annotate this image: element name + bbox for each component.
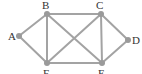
graph-diagram: ABCDEF	[0, 0, 142, 74]
node-d	[125, 37, 131, 43]
edge-d-e	[102, 40, 128, 63]
node-label-e: E	[98, 67, 105, 74]
node-label-c: C	[96, 0, 103, 11]
node-label-b: B	[42, 0, 49, 11]
node-label-a: A	[8, 30, 16, 42]
edge-c-e	[101, 14, 102, 63]
node-b	[44, 11, 50, 17]
node-e	[99, 60, 105, 66]
edge-a-f	[19, 36, 47, 63]
edges	[19, 14, 128, 63]
node-label-d: D	[132, 34, 140, 46]
node-c	[98, 11, 104, 17]
node-a	[16, 33, 22, 39]
node-label-f: F	[43, 67, 49, 74]
edge-a-b	[19, 14, 47, 36]
node-f	[44, 60, 50, 66]
edge-c-d	[101, 14, 128, 40]
